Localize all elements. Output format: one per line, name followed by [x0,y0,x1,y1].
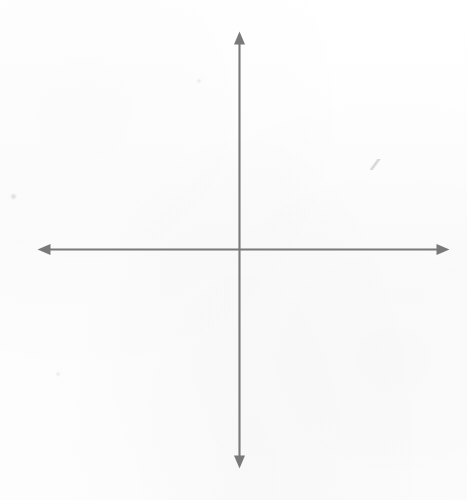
quadrant-III [38,250,239,468]
coordinate-axes-figure [0,0,467,500]
quadrant-IV [240,250,449,468]
x-axis-left-arrow-icon [38,244,51,255]
y-axis-down-arrow-icon [234,456,245,469]
figure-canvas [0,0,467,500]
quadrant-I [240,33,449,249]
x-axis-right-arrow-icon [437,244,450,255]
y-axis-up-arrow-icon [234,32,245,45]
quadrant-II [38,33,239,249]
